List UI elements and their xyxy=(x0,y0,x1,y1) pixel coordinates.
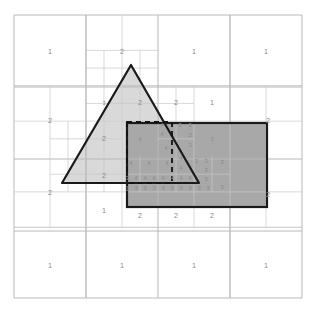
depth-label-2: 2 xyxy=(266,116,270,125)
depth-label-3: 3 xyxy=(204,158,207,164)
depth-label-3: 3 xyxy=(210,136,213,142)
depth-label-1: 1 xyxy=(48,47,52,56)
depth-label-4: 4 xyxy=(161,122,164,128)
depth-label-1: 1 xyxy=(48,261,52,270)
depth-label-3: 3 xyxy=(220,184,223,190)
depth-label-3: 3 xyxy=(188,132,191,138)
depth-label-4: 4 xyxy=(180,165,183,171)
depth-label-2: 2 xyxy=(210,211,214,220)
depth-label-3: 3 xyxy=(125,175,128,181)
depth-label-4: 4 xyxy=(144,175,147,181)
depth-label-3: 3 xyxy=(102,100,105,106)
depth-label-1: 1 xyxy=(264,261,268,270)
depth-label-1: 1 xyxy=(125,184,129,193)
depth-label-4: 4 xyxy=(165,145,168,151)
depth-label-3: 3 xyxy=(179,185,182,191)
depth-label-4: 4 xyxy=(148,160,151,166)
depth-label-1: 1 xyxy=(192,261,196,270)
depth-label-4: 4 xyxy=(162,175,165,181)
depth-label-3: 3 xyxy=(204,167,207,173)
depth-label-4: 4 xyxy=(161,131,164,137)
depth-label-2: 2 xyxy=(174,211,178,220)
depth-label-4: 4 xyxy=(135,175,138,181)
depth-label-3: 3 xyxy=(188,142,191,148)
depth-label-1: 1 xyxy=(264,47,268,56)
depth-label-2: 2 xyxy=(48,116,52,125)
depth-label-3: 3 xyxy=(204,176,207,182)
subdivision-diagram: 1211232212244443333324444433333344444443… xyxy=(0,0,314,316)
depth-label-3: 3 xyxy=(161,185,164,191)
depth-label-2: 2 xyxy=(120,47,124,56)
depth-label-4: 4 xyxy=(166,160,169,166)
depth-label-3: 3 xyxy=(134,185,137,191)
depth-label-3: 3 xyxy=(197,185,200,191)
depth-label-2: 2 xyxy=(48,188,52,197)
depth-label-3: 3 xyxy=(188,185,191,191)
depth-label-2: 2 xyxy=(102,171,106,180)
depth-label-2: 2 xyxy=(266,190,270,199)
depth-label-1: 1 xyxy=(192,47,196,56)
figure-canvas: 1211232212244443333324444433333344444443… xyxy=(0,0,314,316)
depth-label-3: 3 xyxy=(178,122,181,128)
depth-label-2: 2 xyxy=(174,98,178,107)
depth-label-4: 4 xyxy=(171,175,174,181)
depth-label-3: 3 xyxy=(220,159,223,165)
depth-label-4: 4 xyxy=(180,175,183,181)
depth-label-4: 4 xyxy=(130,160,133,166)
depth-label-3: 3 xyxy=(170,185,173,191)
depth-label-4: 4 xyxy=(153,175,156,181)
depth-label-2: 2 xyxy=(102,134,106,143)
depth-label-1: 1 xyxy=(102,206,106,215)
depth-label-2: 2 xyxy=(138,211,142,220)
depth-label-4: 4 xyxy=(180,155,183,161)
depth-label-3: 3 xyxy=(194,158,197,164)
depth-label-3: 3 xyxy=(206,185,209,191)
depth-label-1: 1 xyxy=(210,98,214,107)
depth-label-3: 3 xyxy=(152,185,155,191)
depth-label-3: 3 xyxy=(188,122,191,128)
depth-label-4: 4 xyxy=(189,175,192,181)
depth-label-1: 1 xyxy=(120,261,124,270)
depth-label-4: 4 xyxy=(139,136,142,142)
depth-label-2: 2 xyxy=(138,98,142,107)
depth-label-3: 3 xyxy=(143,185,146,191)
